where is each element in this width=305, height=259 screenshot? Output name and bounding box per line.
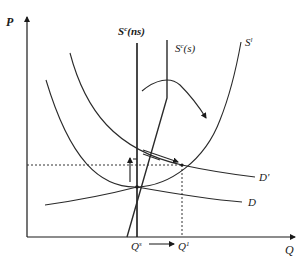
demand-initial: D	[45, 187, 256, 208]
initial-equilibrium-point	[135, 185, 139, 189]
annotation-arrows	[130, 80, 206, 244]
supply-storage-label: Sc(s)	[175, 42, 196, 55]
reference-lines	[27, 165, 182, 237]
long-run-supply: Sl	[46, 36, 253, 187]
y-axis-label: P	[6, 15, 14, 29]
demand-shifted-label: D'	[258, 171, 270, 183]
demand-initial-curve	[45, 187, 242, 205]
q-start-label: Qs	[131, 240, 142, 252]
axes: P Q	[6, 15, 295, 257]
supply-no-storage: Sc(ns)	[118, 25, 145, 237]
curved-arrow	[142, 80, 206, 118]
quantity-labels: Qs Q1	[131, 240, 189, 252]
supply-demand-diagram: P Q Sc(ns) Sc(s) Sl D' D	[0, 0, 305, 259]
demand-shifted: D'	[70, 53, 270, 183]
supply-storage-line	[127, 40, 167, 237]
q-end-label: Q1	[178, 240, 189, 252]
demand-initial-label: D	[247, 196, 256, 208]
x-axis-label: Q	[285, 243, 294, 257]
new-equilibrium-point	[180, 163, 183, 166]
supply-no-storage-label: Sc(ns)	[118, 25, 145, 38]
long-run-supply-label: Sl	[245, 36, 253, 48]
